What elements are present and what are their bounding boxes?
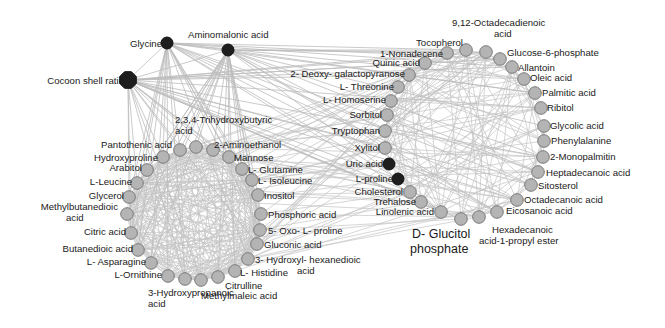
node-label-cocoon-shell-ratio: Cocoon shell ratio [47,75,124,86]
node-label-l-threonine: L- Threonine [340,81,394,92]
node-9-12-octadecadienoic-acid [480,46,493,59]
node-methylmaleic-acid [195,274,208,287]
node-butanedioic-acid [132,244,145,257]
node-label-l-leucine: L-Leucine [90,176,132,187]
node-oleic-acid [518,73,531,86]
node-label-sorbitol: Sorbitol [349,109,382,120]
node-eicosanoic-acid [491,206,504,219]
node-aminomalonic-acid [222,44,234,56]
node-5-oxo-l-proline [254,224,267,237]
node-label-ribitol: Ribitol [547,102,574,113]
node-citrulline [212,271,225,284]
node-l-isoleucine [246,174,259,187]
node-label-tryptophan: Tryptophan [332,125,380,136]
node-label-glycine: Glycine [130,38,162,49]
node-label-glycolic-acid: Glycolic acid [550,120,604,131]
node-l-ornithine [162,270,175,283]
node-methylbutanedioic-acid [121,208,134,221]
node-l-proline [392,173,404,185]
node-label-glucose-6-phosphate: Glucose-6-phosphate [507,47,599,58]
node-label-palmitic-acid: Palmitic acid [542,87,596,98]
node-2-monopalmitin [537,151,550,164]
node-label-linolenic-acid: Linolenic acid [376,206,434,217]
node-label-gluconic-acid: Gluconic acid [264,239,322,250]
node-glycine [161,37,173,49]
node-label-sitosterol: Sitosterol [538,180,578,191]
node-label-oleic-acid: Oleic acid [530,72,572,83]
node-label-l-proline: L-proline [356,173,393,184]
node-3-hydroxypropanoic-acid [179,273,192,286]
node-linolenic-acid [435,206,448,219]
node-gluconic-acid [251,238,264,251]
node-label-pantothenic-acid: Pantothenic acid [101,139,172,150]
node-2-3-4-trihydroxybutyric-acid [190,141,203,154]
node-label-phenylalanine: Phenylalanine [551,135,611,146]
node-phenylalanine [538,135,551,148]
node-l-glutamine [236,163,249,176]
node-3-hydroxyl-hexanedioic-acid [242,253,255,266]
node-l-asparagine [145,257,158,270]
node-palmitic-acid [529,87,542,100]
node-phosphoric-acid [255,208,268,221]
edge [196,50,228,147]
node-xylitol [379,142,392,155]
node-label-9-12-octadecadienoic-acid: 9,12-Octadecadienoicacid [452,17,546,39]
node-label-5-oxo-l-proline: 5- Oxo- L- proline [268,225,343,236]
node-glucose-6-phosphate [494,53,507,66]
node-label-uric-acid: Uric acid [346,158,383,169]
node-label-2-aminoethanol: 2-Aminoethanol [214,139,281,150]
node-uric-acid [383,158,395,170]
node-label-eicosanoic-acid: Eicosanoic acid [506,205,573,216]
node-label-phosphoric-acid: Phosphoric acid [268,209,336,220]
node-label-butanedioic-acid: Butanedioic acid [63,243,133,254]
node-inositol [252,189,265,202]
node-citric-acid [125,227,138,240]
node-label-citric-acid: Citric acid [84,226,126,237]
node-pantothenic-acid [174,144,187,157]
node-sorbitol [381,109,394,122]
node-label-mannose: Mannose [234,152,273,163]
node-label-arabitol: Arabitol [109,162,142,173]
node-label-l-asparagine: L- Asparagine [87,256,146,267]
node-heptadecanoic-acid [532,166,545,179]
node-label-xylitol: Xylitol [354,142,380,153]
node-glycolic-acid [538,120,551,133]
node-label-glycerol: Glycerol [89,190,124,201]
node-tryptophan [379,125,392,138]
node-allantoin [506,61,519,74]
node-label-quinic-acid: Quinic acid [373,57,420,68]
node-d-glucitol-phosphate [455,213,468,226]
node-label-hexadecanoic-acid-1-propyl-ester: Hexadecanoicacid-1-propyl ester [479,224,559,246]
node-label-2-deoxy-galactopyranose: 2- Deoxy- galactopyranose [290,68,405,79]
node-label-tocopherol: Tocopherol [416,37,463,48]
node-label-l-glutamine: L- Glutamine [248,164,303,175]
node-glycerol [123,191,136,204]
node-label-methylbutanedioic-acid: Methylbutanedioicacid [41,201,119,223]
node-label-l-ornithine: L-Ornithine [115,269,162,280]
node-label-d-glucitol-phosphate: D- Glucitolphosphate [410,227,470,256]
node-hexadecanoic-acid-1-propyl-ester [473,211,486,224]
node-label-l-isoleucine: L- Isoleucine [258,175,312,186]
node-label-octadecanoic-acid: Octadecanoic acid [524,194,603,205]
node-l-homoserine [385,95,398,108]
node-label-2-monopalmitin: 2-Monopalmitin [550,151,616,162]
node-label-trehalose: Trehalose [374,196,416,207]
node-ribitol [535,102,548,115]
node-label-l-homoserine: L- Homoserine [323,94,386,105]
metabolite-correlation-network: HydroxyprolinePantothenic acid2,3,4-Trih… [0,0,665,328]
node-sitosterol [525,179,538,192]
node-label-inositol: Inositol [264,190,294,201]
node-arabitol [141,164,154,177]
node-label-heptadecanoic-acid: Heptadecanoic acid [546,167,630,178]
node-l-leucine [131,177,144,190]
node-label-l-histidine: L- Histidine [240,267,288,278]
node-label-aminomalonic-acid: Aminomalonic acid [188,29,269,40]
node-hydroxyproline [157,151,170,164]
node-label-cholesterol: Cholesterol [354,186,403,197]
